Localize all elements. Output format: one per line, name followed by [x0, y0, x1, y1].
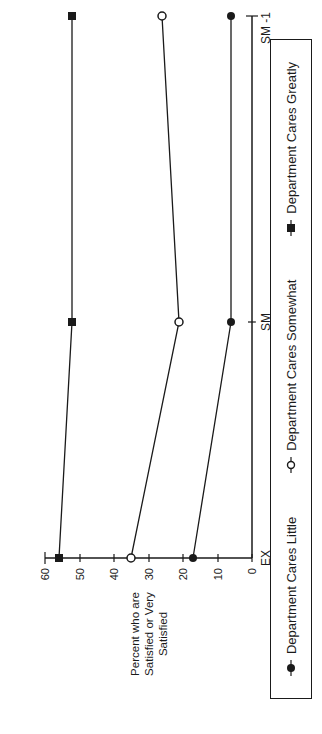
marker-square	[68, 12, 76, 20]
marker-filled-circle	[189, 554, 197, 562]
series-little-line	[193, 16, 231, 558]
legend-item-little: Department Cares Little	[284, 517, 299, 676]
svg-text:20: 20	[177, 568, 189, 580]
filled-square-marker-icon	[286, 220, 296, 236]
legend-item-somewhat: Department Cares Somewhat	[284, 280, 299, 473]
svg-text:40: 40	[108, 568, 120, 580]
svg-text:0: 0	[246, 568, 258, 574]
svg-text:60: 60	[39, 568, 51, 580]
legend-label: Department Cares Somewhat	[284, 280, 299, 451]
series-somewhat-line	[131, 16, 179, 558]
marker-open-circle	[158, 12, 166, 20]
legend-label: Department Cares Little	[284, 517, 299, 654]
marker-open-circle	[127, 554, 135, 562]
marker-open-circle	[175, 318, 183, 326]
svg-text:10: 10	[212, 568, 224, 580]
y-tick-labels: 60 50 40 30 20 10 0	[39, 568, 258, 580]
svg-text:50: 50	[74, 568, 86, 580]
series-greatly-line	[59, 16, 72, 558]
marker-square	[55, 554, 63, 562]
open-circle-marker-icon	[286, 457, 296, 473]
marker-filled-circle	[227, 12, 235, 20]
marker-square	[68, 318, 76, 326]
legend-item-greatly: Department Cares Greatly	[284, 62, 299, 236]
legend-label: Department Cares Greatly	[284, 62, 299, 214]
svg-text:30: 30	[143, 568, 155, 580]
filled-circle-marker-icon	[286, 660, 296, 676]
chart-stage: Percent who are Satisfied or Very Satisf…	[0, 0, 322, 734]
legend: Department Cares Little Department Cares…	[270, 39, 312, 699]
rotated-chart: Percent who are Satisfied or Very Satisf…	[0, 0, 322, 734]
marker-filled-circle	[227, 318, 235, 326]
